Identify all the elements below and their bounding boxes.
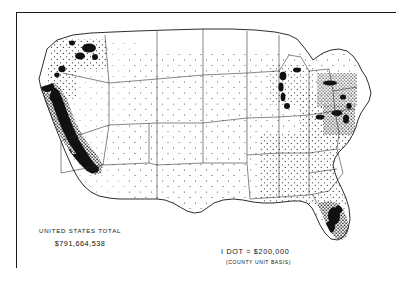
map-plate-sheet: VALUE OF FRUITS AND NUTS SOLD DOLLARS, 1… [0,0,414,289]
legend-dot-value: I DOT = $200,000 (COUNTY UNIT BASIS) [221,247,291,265]
legend-united-states-total: UNITED STATES TOTAL $791,664,538 [39,227,121,248]
legend-total-value: $791,664,538 [39,239,121,248]
legend-dot-basis: (COUNTY UNIT BASIS) [226,259,291,265]
map-frame-border: VALUE OF FRUITS AND NUTS SOLD DOLLARS, 1… [16,12,396,268]
legend-total-label: UNITED STATES TOTAL [39,227,121,234]
legend-dot-label: I DOT = $200,000 [221,247,291,256]
